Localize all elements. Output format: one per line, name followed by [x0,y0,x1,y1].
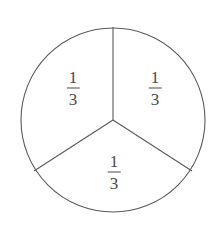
fraction-circle-figure: 1 3 1 3 1 3 [0,0,219,228]
radius-lower-right-line [113,120,192,171]
radius-lower-left-line [34,120,113,171]
fraction-denominator: 3 [67,90,80,108]
sector-label-right: 1 3 [149,69,162,108]
fraction-one-third-bottom: 1 3 [108,153,121,192]
fraction-one-third-right: 1 3 [149,69,162,108]
fraction-one-third-left: 1 3 [67,69,80,108]
fraction-bar [108,172,121,173]
fraction-numerator: 1 [149,69,162,87]
fraction-numerator: 1 [108,153,121,171]
fraction-bar [149,88,162,89]
sector-label-left: 1 3 [67,69,80,108]
sector-label-bottom: 1 3 [108,153,121,192]
fraction-denominator: 3 [149,90,162,108]
fraction-numerator: 1 [67,69,80,87]
fraction-bar [67,88,80,89]
pie-diagram-svg [0,0,219,228]
fraction-denominator: 3 [108,174,121,192]
